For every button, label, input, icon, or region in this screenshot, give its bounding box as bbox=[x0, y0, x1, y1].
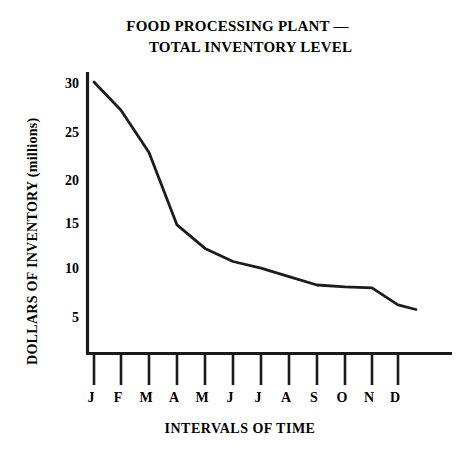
y-tick-label-10: 10 bbox=[65, 261, 79, 276]
x-tick-label-mar: M bbox=[139, 390, 152, 405]
y-axis-label: DOLLARS OF INVENTORY (millions) bbox=[25, 117, 41, 365]
inventory-data-line bbox=[94, 82, 416, 310]
x-tick-label-nov: N bbox=[364, 390, 374, 405]
y-tick-label-15: 15 bbox=[65, 216, 79, 231]
x-tick-label-may: M bbox=[195, 390, 208, 405]
y-tick-label-25: 25 bbox=[65, 125, 79, 140]
x-tick-label-apr: A bbox=[169, 390, 180, 405]
x-tick-label-oct: O bbox=[337, 390, 348, 405]
y-tick-label-5: 5 bbox=[72, 310, 79, 325]
x-tick-label-feb: F bbox=[114, 390, 123, 405]
x-tick-label-jul: J bbox=[255, 390, 262, 405]
inventory-line-chart: FOOD PROCESSING PLANT — TOTAL INVENTORY … bbox=[0, 0, 475, 455]
chart-plot-area: DOLLARS OF INVENTORY (millions) 30 25 20… bbox=[0, 0, 475, 455]
x-tick-label-jan: J bbox=[88, 390, 95, 405]
x-axis-label: INTERVALS OF TIME bbox=[165, 421, 316, 436]
x-tick-label-jun: J bbox=[227, 390, 234, 405]
y-tick-label-20: 20 bbox=[65, 173, 79, 188]
x-tick-label-sep: S bbox=[310, 390, 318, 405]
x-tick-label-aug: A bbox=[281, 390, 292, 405]
x-tick-label-dec: D bbox=[390, 390, 400, 405]
y-tick-label-30: 30 bbox=[65, 76, 79, 91]
